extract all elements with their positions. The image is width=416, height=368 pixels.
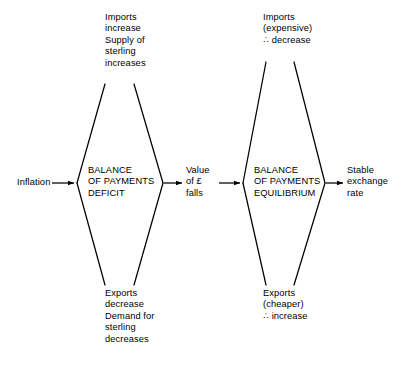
balance-of-payments-diagram: Inflation Imports increase Supply of ste… [0,0,416,368]
label-imports-expensive-decrease: Imports (expensive) ∴ decrease [263,12,312,46]
label-balance-of-payments-equilibrium: BALANCE OF PAYMENTS EQUILIBRIUM [254,165,320,199]
label-exports-cheaper-increase: Exports (cheaper) ∴ increase [263,288,308,322]
label-inflation: Inflation [17,177,50,188]
label-balance-of-payments-deficit: BALANCE OF PAYMENTS DEFICIT [88,165,154,199]
label-value-of-pound-falls: Value of £ falls [186,165,210,199]
label-stable-exchange-rate: Stable exchange rate [347,165,388,199]
label-imports-increase-supply-of-sterling-increases: Imports increase Supply of sterling incr… [105,12,146,69]
label-exports-decrease-demand-for-sterling-decreases: Exports decrease Demand for sterling dec… [105,288,155,345]
